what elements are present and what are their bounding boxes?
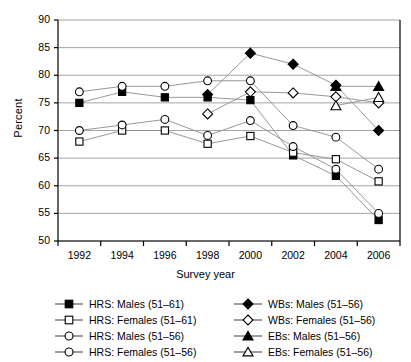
data-point-open-square — [332, 156, 339, 163]
data-point-open-circle — [246, 117, 254, 125]
legend-label: HRS: Females (51–61) — [89, 313, 196, 327]
legend-marker-open-square — [54, 313, 84, 327]
x-tick-label: 1998 — [188, 249, 228, 261]
legend-item[interactable]: HRS: Females (51–61) — [54, 312, 225, 328]
data-point-open-square — [247, 132, 254, 139]
legend-key — [54, 345, 84, 359]
chart-legend: HRS: Males (51–61)WBs: Males (51–56)HRS:… — [54, 296, 404, 360]
data-point-open-circle — [204, 77, 212, 85]
x-tick-label: 1994 — [102, 249, 142, 261]
legend-marker-filled-square — [54, 297, 84, 311]
legend-key — [233, 297, 263, 311]
y-tick-label: 55 — [26, 206, 50, 218]
y-tick-label: 70 — [26, 124, 50, 136]
data-point-open-circle — [118, 121, 126, 129]
legend-marker-filled-diamond — [233, 297, 263, 311]
data-point-open-circle — [246, 77, 254, 85]
x-tick-label: 2002 — [273, 249, 313, 261]
y-tick-label: 80 — [26, 68, 50, 80]
legend-item[interactable]: HRS: Females (51–56) — [54, 344, 225, 360]
data-point-open-circle — [118, 82, 126, 90]
data-point-open-square — [161, 127, 168, 134]
data-point-filled-diamond — [288, 59, 298, 69]
x-axis-title: Survey year — [0, 268, 411, 280]
data-point-open-square — [204, 140, 211, 147]
legend-key — [233, 345, 263, 359]
x-tick-label: 2004 — [316, 249, 356, 261]
data-point-open-circle — [75, 127, 83, 135]
legend-label: EBs: Females (51–56) — [268, 345, 372, 359]
x-tick-label: 2006 — [359, 249, 399, 261]
data-point-open-circle — [375, 165, 383, 173]
legend-label: HRS: Males (51–56) — [89, 329, 184, 343]
legend-item[interactable]: WBs: Females (51–56) — [233, 312, 404, 328]
legend-label: EBs: Males (51–56) — [268, 329, 360, 343]
data-point-filled-square — [161, 94, 168, 101]
data-point-open-circle — [161, 116, 169, 124]
series-line-7 — [336, 97, 379, 105]
legend-marker-open-circle — [54, 345, 84, 359]
y-tick-label: 85 — [26, 41, 50, 53]
legend-item[interactable]: HRS: Males (51–56) — [54, 328, 225, 344]
legend-item[interactable]: WBs: Males (51–56) — [233, 296, 404, 312]
data-point-open-square — [76, 138, 83, 145]
data-point-open-diamond — [245, 87, 255, 97]
y-tick-label: 90 — [26, 13, 50, 25]
legend-key — [54, 329, 84, 343]
legend-label: HRS: Males (51–61) — [89, 297, 184, 311]
legend-item[interactable]: EBs: Males (51–56) — [233, 328, 404, 344]
data-point-open-circle — [289, 143, 297, 151]
legend-key — [54, 297, 84, 311]
data-point-open-circle — [289, 122, 297, 130]
data-point-filled-square — [76, 99, 83, 106]
x-tick-label: 2000 — [230, 249, 270, 261]
data-point-open-circle — [332, 133, 340, 141]
y-tick-label: 60 — [26, 179, 50, 191]
legend-item[interactable]: EBs: Females (51–56) — [233, 344, 404, 360]
data-point-open-diamond — [288, 88, 298, 98]
data-point-open-triangle — [374, 93, 384, 102]
data-point-open-circle — [204, 132, 212, 140]
legend-marker-open-circle — [54, 329, 84, 343]
data-point-open-diamond — [203, 109, 213, 119]
data-point-open-circle — [161, 82, 169, 90]
chart-container: Percent Survey year 505560657075808590 1… — [0, 0, 411, 362]
legend-marker-open-diamond — [233, 313, 263, 327]
legend-label: WBs: Males (51–56) — [268, 297, 363, 311]
legend-key — [233, 329, 263, 343]
legend-label: HRS: Females (51–56) — [89, 345, 196, 359]
x-tick-label: 1996 — [145, 249, 185, 261]
data-point-open-circle — [332, 165, 340, 173]
y-tick-label: 65 — [26, 151, 50, 163]
legend-item[interactable]: HRS: Males (51–61) — [54, 296, 225, 312]
legend-label: WBs: Females (51–56) — [268, 313, 375, 327]
y-tick-label: 50 — [26, 234, 50, 246]
legend-marker-open-triangle — [233, 345, 263, 359]
y-axis-title: Percent — [12, 78, 24, 158]
data-point-open-circle — [375, 209, 383, 217]
data-point-open-square — [375, 178, 382, 185]
legend-key — [233, 313, 263, 327]
x-tick-label: 1992 — [59, 249, 99, 261]
legend-marker-filled-triangle — [233, 329, 263, 343]
y-tick-label: 75 — [26, 96, 50, 108]
data-point-open-circle — [75, 88, 83, 96]
legend-key — [54, 313, 84, 327]
